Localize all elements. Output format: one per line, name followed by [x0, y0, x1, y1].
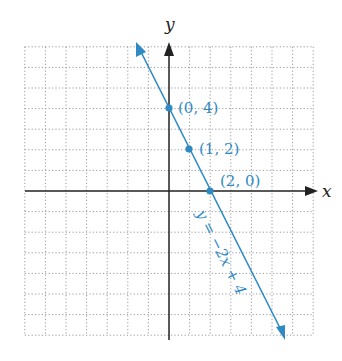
y-axis-arrow-icon — [164, 42, 174, 56]
point-1-2 — [185, 145, 192, 152]
x-axis-arrow-icon — [305, 186, 318, 196]
coordinate-plane: x y (0, 4) (1, 2) (2, 0) y = −2x + 4 — [0, 0, 342, 361]
point-2-0 — [206, 187, 213, 194]
point-0-4 — [165, 104, 172, 111]
point-label-1-2: (1, 2) — [199, 140, 239, 158]
x-axis-label: x — [322, 181, 332, 201]
point-label-0-4: (0, 4) — [178, 99, 218, 117]
point-label-2-0: (2, 0) — [220, 172, 260, 190]
line-arrow-bottom-icon — [276, 325, 285, 340]
line-arrow-top-icon — [136, 42, 146, 57]
y-axis-label: y — [164, 14, 175, 34]
